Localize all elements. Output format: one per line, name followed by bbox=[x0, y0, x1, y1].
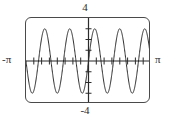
x-min-label: -π bbox=[2, 54, 11, 65]
x-max-label: π bbox=[155, 54, 161, 65]
plot-canvas bbox=[26, 18, 150, 103]
plot-frame bbox=[25, 17, 150, 103]
y-max-label: 4 bbox=[0, 2, 170, 13]
y-min-label: -4 bbox=[0, 105, 170, 116]
graph-screenshot: 4 -4 -π π bbox=[0, 0, 170, 120]
